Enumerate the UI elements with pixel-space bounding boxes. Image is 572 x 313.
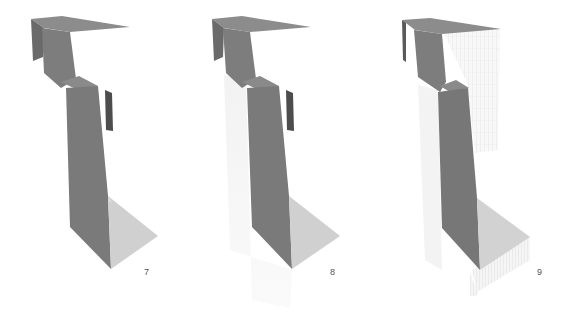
figure-9: 9 [380, 0, 572, 313]
figure-number: 8 [330, 267, 335, 277]
figure-7-drawing [0, 0, 190, 313]
figure-number: 9 [537, 267, 542, 277]
figure-number: 7 [144, 267, 149, 277]
figure-9-drawing [380, 0, 572, 313]
figure-7: 7 [0, 0, 190, 313]
figure-8: 8 [190, 0, 380, 313]
figure-8-drawing [190, 0, 380, 313]
